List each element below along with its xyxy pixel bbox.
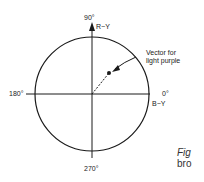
vector-label-line2: light purple — [146, 57, 180, 64]
label-90: 90° — [84, 14, 95, 21]
label-180: 180° — [9, 90, 23, 97]
caption-line2: bro — [177, 159, 191, 170]
vector-dashed-line — [92, 73, 109, 94]
vector-label-line1: Vector for — [146, 49, 176, 56]
caption-line1: Fig — [177, 148, 191, 159]
label-270: 270° — [84, 165, 98, 172]
up-arrow-icon — [89, 22, 95, 31]
vector-point — [107, 71, 111, 75]
label-b-y: B−Y — [152, 100, 165, 107]
label-r-y: R−Y — [96, 23, 110, 30]
label-0: 0° — [162, 90, 169, 97]
